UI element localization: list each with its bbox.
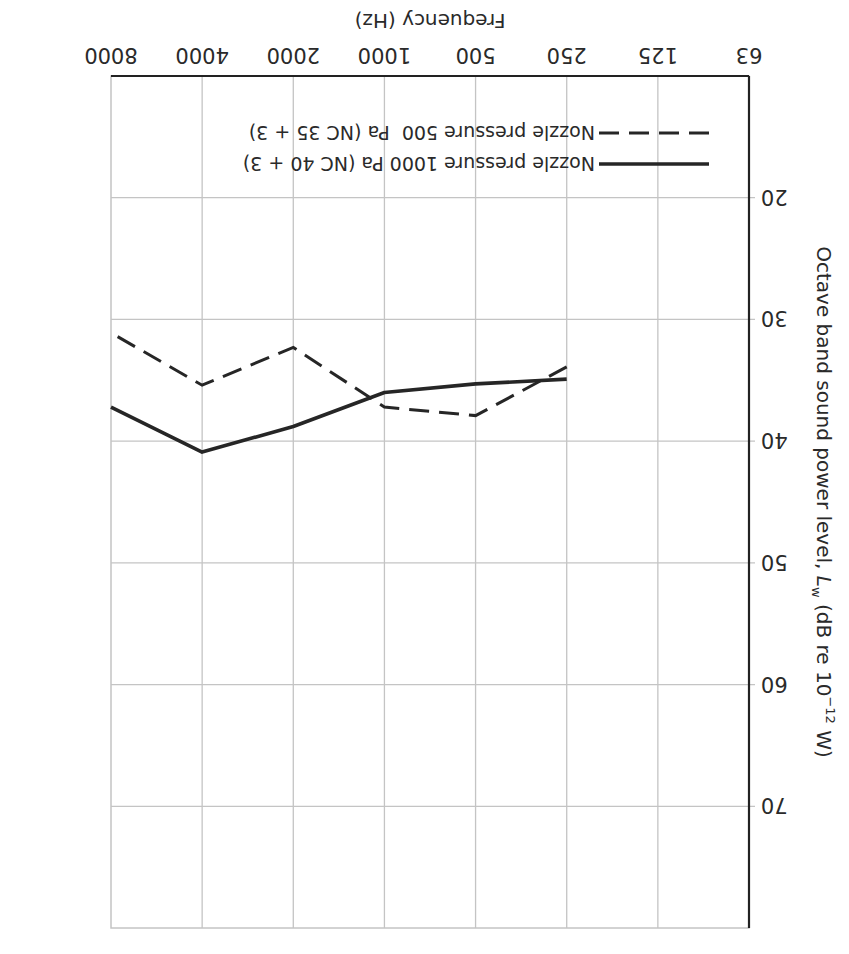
x-tick-labels: 631252505001000200040008000 bbox=[84, 43, 762, 67]
y-tick-labels: 203040506070 bbox=[761, 185, 788, 818]
x-tick-label: 1000 bbox=[358, 43, 411, 67]
y-title-unit-post: W) bbox=[812, 724, 836, 758]
series-line-500pa bbox=[111, 333, 567, 416]
chart-svg: 631252505001000200040008000 203040506070… bbox=[0, 0, 849, 954]
vertical-gridlines bbox=[202, 76, 658, 928]
y-title-exponent: −12 bbox=[823, 696, 838, 723]
upright-chart-group: 631252505001000200040008000 203040506070… bbox=[84, 9, 838, 928]
legend-label-500pa: Nozzle pressure 500 Pa (NC 35 + 3) bbox=[249, 122, 595, 144]
y-tick-label: 60 bbox=[761, 672, 788, 696]
y-tick-label: 30 bbox=[761, 306, 788, 330]
x-tick-label: 500 bbox=[456, 43, 496, 67]
x-tick-label: 4000 bbox=[175, 43, 228, 67]
x-tick-label: 125 bbox=[638, 43, 678, 67]
y-tick-label: 40 bbox=[761, 428, 788, 452]
y-tick-label: 50 bbox=[761, 550, 788, 574]
y-title-subscript: w bbox=[809, 587, 824, 598]
x-tick-label: 63 bbox=[736, 43, 763, 67]
y-title-symbol: L bbox=[812, 576, 836, 587]
x-axis-title: Frequency (Hz) bbox=[355, 9, 506, 33]
x-tick-label: 250 bbox=[547, 43, 587, 67]
y-title-main: Octave band sound power level, bbox=[812, 246, 836, 576]
y-title-unit-pre: (dB re 10 bbox=[812, 598, 836, 697]
chart: 631252505001000200040008000 203040506070… bbox=[0, 0, 849, 954]
x-tick-label: 2000 bbox=[267, 43, 320, 67]
y-tick-label: 70 bbox=[761, 793, 788, 817]
x-tick-label: 8000 bbox=[84, 43, 137, 67]
legend-label-1000pa: Nozzle pressure 1000 Pa (NC 40 + 3) bbox=[243, 153, 595, 175]
plot-frame bbox=[111, 76, 749, 928]
y-tick-label: 20 bbox=[761, 185, 788, 209]
y-axis-title: Octave band sound power level, Lw (dB re… bbox=[809, 246, 838, 758]
